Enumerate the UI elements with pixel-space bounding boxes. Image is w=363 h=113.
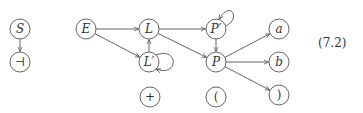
equation-number: (7.2)	[318, 36, 346, 50]
node-label: L′	[143, 55, 155, 69]
node-label: a	[275, 22, 282, 36]
node-Pp: P′	[206, 19, 226, 39]
node-label: +	[145, 90, 155, 104]
edge-P-to-a	[225, 34, 270, 57]
node-Lp: L′	[139, 52, 159, 72]
node-E: E	[76, 19, 96, 39]
node-label: P	[211, 55, 221, 69]
node-lparen: (	[206, 87, 226, 107]
node-P: P	[206, 52, 226, 72]
node-label: ⊣	[15, 55, 25, 69]
node-label: S	[16, 22, 24, 36]
edge-P-to-rparen	[225, 67, 270, 90]
node-label: P′	[210, 22, 222, 36]
node-label: (	[214, 90, 219, 104]
node-rparen: )	[269, 85, 289, 105]
node-label: )	[277, 88, 282, 102]
node-end: ⊣	[10, 52, 30, 72]
node-label: E	[81, 22, 91, 36]
edge-E-to-Lp	[95, 34, 140, 57]
nodes: S⊣ELL′+P′P(ab)	[10, 19, 289, 107]
dependency-graph: S⊣ELL′+P′P(ab) (7.2)	[0, 0, 363, 113]
node-plus: +	[140, 87, 160, 107]
node-a: a	[269, 19, 289, 39]
node-label: b	[275, 55, 283, 69]
node-b: b	[269, 52, 289, 72]
node-L: L	[139, 19, 159, 39]
node-S: S	[10, 19, 30, 39]
node-label: L	[144, 22, 153, 36]
